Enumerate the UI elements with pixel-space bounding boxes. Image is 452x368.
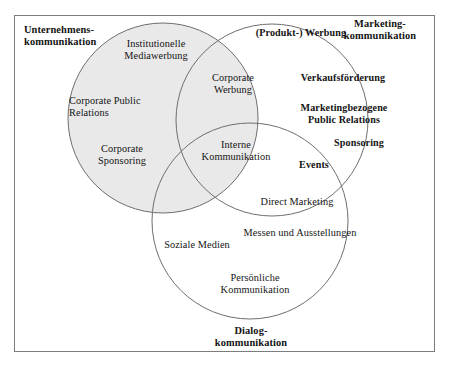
- item-marketingbezogene-public-relations: Marketingbezogene Public Relations: [284, 102, 404, 126]
- outer-label-dialogkommunikation: Dialog- kommunikation: [193, 325, 309, 350]
- item-corporate-sponsoring: Corporate Sponsoring: [79, 143, 165, 167]
- item-verkaufsfoerderung: Verkaufsförderung: [287, 72, 399, 84]
- item-soziale-medien: Soziale Medien: [151, 239, 243, 251]
- venn-diagram-canvas: Unternehmens- kommunikation Marketing- k…: [0, 0, 452, 368]
- item-produkt-werbung: (Produkt-) Werbung: [243, 27, 359, 39]
- venn-circles-svg: [0, 0, 452, 368]
- item-corporate-werbung: Corporate Werbung: [189, 72, 277, 96]
- item-institutionelle-mediawerbung: Institutionelle Mediawerbung: [103, 38, 209, 62]
- item-sponsoring: Sponsoring: [324, 137, 394, 149]
- item-messen-und-ausstellungen: Messen und Ausstellungen: [228, 227, 372, 239]
- item-persoenliche-kommunikation: Persönliche Kommunikation: [202, 272, 308, 296]
- item-interne-kommunikation: Interne Kommunikation: [186, 139, 286, 163]
- item-corporate-public-relations: Corporate Public Relations: [69, 95, 181, 119]
- item-direct-marketing: Direct Marketing: [250, 196, 344, 208]
- item-events: Events: [288, 159, 340, 171]
